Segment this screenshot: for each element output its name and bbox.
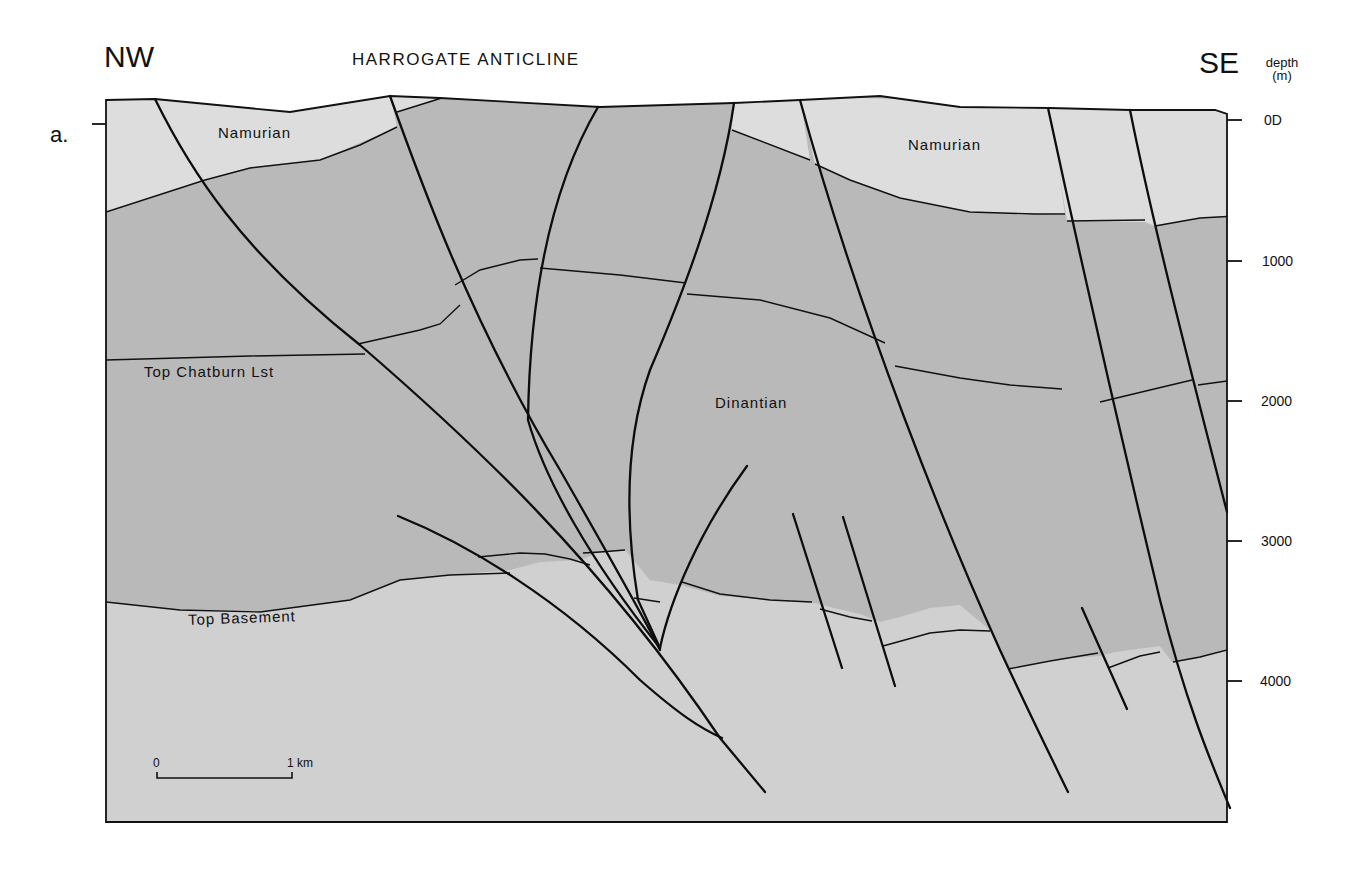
direction-se: SE — [1199, 46, 1239, 80]
depth-axis-title: depth (m) — [1262, 56, 1302, 82]
depth-tick-3000: 3000 — [1261, 533, 1292, 549]
section-title: HARROGATE ANTICLINE — [352, 50, 580, 70]
depth-ticks — [1227, 120, 1242, 681]
depth-tick-4000: 4000 — [1260, 673, 1291, 689]
namurian-block-7 — [1128, 106, 1235, 226]
label-top-chatburn: Top Chatburn Lst — [144, 363, 274, 380]
depth-tick-0: 0D — [1264, 112, 1282, 128]
depth-tick-1000: 1000 — [1262, 253, 1293, 269]
direction-nw: NW — [104, 40, 154, 74]
depth-tick-2000: 2000 — [1261, 393, 1292, 409]
depth-unit: (m) — [1262, 69, 1302, 82]
panel-label: a. — [50, 122, 68, 148]
scale-bar-start: 0 — [153, 756, 160, 770]
label-namurian-right: Namurian — [908, 136, 981, 153]
cross-section-diagram — [0, 0, 1347, 872]
label-namurian-left: Namurian — [218, 124, 291, 141]
label-dinantian: Dinantian — [715, 394, 787, 411]
scale-bar-end: 1 km — [287, 756, 313, 770]
